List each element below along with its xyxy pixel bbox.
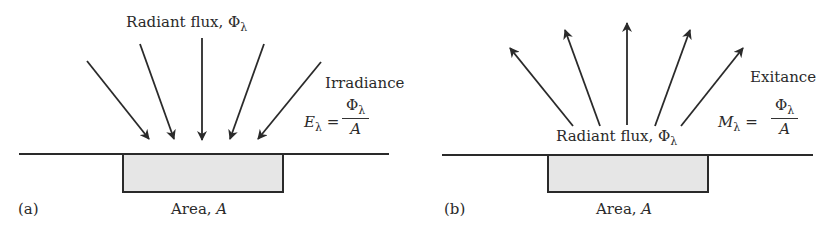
exitance-label: Exitance bbox=[750, 68, 816, 86]
fraction-denominator: A bbox=[342, 119, 369, 138]
panel-label-a: (a) bbox=[18, 200, 39, 218]
incoming-arrow-1 bbox=[87, 61, 149, 139]
irradiance-symbol: Eλ = bbox=[304, 113, 339, 134]
fraction-numerator: Φλ bbox=[771, 96, 798, 119]
irradiance-label: Irradiance bbox=[325, 74, 405, 92]
exitance-fraction: Φλ A bbox=[771, 96, 798, 138]
outgoing-arrow-1 bbox=[510, 48, 573, 126]
area-patch-b bbox=[548, 155, 708, 192]
area-label-b: Area, A bbox=[596, 200, 652, 218]
fraction-denominator: A bbox=[771, 119, 798, 138]
panel-b-graphics bbox=[442, 23, 813, 192]
incoming-arrow-2 bbox=[140, 44, 174, 139]
diagram-canvas bbox=[0, 0, 840, 241]
radiant-flux-label-b: Radiant flux, Φλ bbox=[556, 127, 677, 148]
fraction-numerator: Φλ bbox=[342, 96, 369, 119]
irradiance-fraction: Φλ A bbox=[342, 96, 369, 138]
area-label-a: Area, A bbox=[171, 200, 227, 218]
outgoing-arrow-4 bbox=[655, 30, 690, 126]
area-patch-a bbox=[123, 154, 283, 192]
radiant-flux-label-a: Radiant flux, Φλ bbox=[126, 13, 247, 34]
exitance-symbol: Mλ = bbox=[718, 113, 758, 134]
incoming-arrow-4 bbox=[230, 44, 264, 139]
panel-label-b: (b) bbox=[444, 200, 465, 218]
outgoing-arrow-2 bbox=[565, 30, 600, 126]
